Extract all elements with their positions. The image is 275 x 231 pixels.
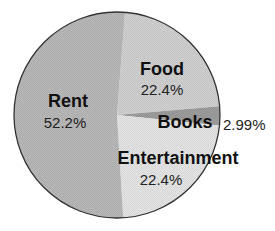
slice-label-entertainment: Entertainment <box>117 148 238 168</box>
slice-pct-food: 22.4% <box>141 81 184 98</box>
slice-pct-rent: 52.2% <box>44 114 87 131</box>
slice-pct-books: 2.99% <box>223 116 266 133</box>
slice-label-food: Food <box>140 59 184 79</box>
slice-pct-entertainment: 22.4% <box>140 171 183 188</box>
pie-chart: Rent 52.2% Food 22.4% Books 2.99% Entert… <box>0 0 275 231</box>
slice-label-books: Books <box>157 112 212 132</box>
slice-label-rent: Rent <box>48 91 88 111</box>
